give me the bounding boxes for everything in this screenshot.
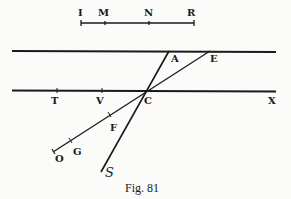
label-S: S	[105, 165, 114, 180]
figure-canvas: I M N R A E T V C X F G O S Fig. 81	[0, 0, 291, 199]
geometry-diagram: I M N R A E T V C X F G O S Fig. 81	[0, 0, 291, 199]
figure-caption: Fig. 81	[125, 181, 159, 195]
ray-E-C-O	[53, 51, 210, 152]
label-O: O	[55, 153, 64, 164]
scale-bar	[81, 20, 194, 26]
label-G: G	[73, 146, 82, 157]
label-T: T	[51, 95, 59, 106]
upper-line	[12, 51, 276, 52]
label-N: N	[144, 7, 153, 18]
label-C: C	[144, 95, 152, 106]
label-M: M	[98, 7, 109, 18]
label-A: A	[170, 53, 179, 64]
label-V: V	[95, 95, 104, 106]
label-I: I	[78, 7, 83, 18]
ray-A-C-S	[101, 51, 169, 172]
label-R: R	[187, 7, 196, 18]
label-F: F	[110, 122, 117, 133]
lower-line	[12, 91, 276, 92]
label-E: E	[210, 53, 218, 64]
label-X: X	[268, 95, 276, 106]
